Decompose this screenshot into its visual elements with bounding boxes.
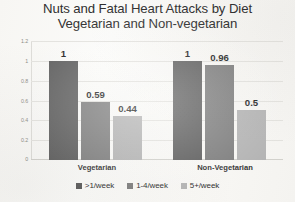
plot-area: 1.2 1 0.8 0.6 0.4 0.2 0 1 0.59 0.44 1 <box>31 41 283 160</box>
bar-value-label: 1 <box>173 48 202 59</box>
bar-value-label: 0.96 <box>205 52 234 63</box>
y-tick-label: 1 <box>25 58 28 64</box>
chart-title-line-2: Vegetarian and Non-vegetarian <box>0 16 295 31</box>
chart-figure: Nuts and Fatal Heart Attacks by Diet Veg… <box>0 0 295 202</box>
y-tick-label: 0.6 <box>21 98 28 104</box>
bar-value-label: 1 <box>49 48 78 59</box>
bar-slot: 1 <box>49 41 78 160</box>
bar-slot: 0.59 <box>81 41 110 160</box>
bar-slot: 0.5 <box>237 41 266 160</box>
x-axis-category-label: Vegetarian <box>31 163 163 172</box>
bar-group-vegetarian: 1 0.59 0.44 <box>47 41 147 160</box>
legend-label: 1-4/week <box>136 181 168 190</box>
bar[interactable] <box>237 110 266 160</box>
bar-group-non-vegetarian: 1 0.96 0.5 <box>171 41 271 160</box>
y-tick-label: 0.4 <box>21 117 28 123</box>
bar-slot: 0.44 <box>113 41 142 160</box>
bar[interactable] <box>173 61 202 160</box>
legend-label: >1/week <box>85 181 114 190</box>
y-tick-label: 1.2 <box>21 38 28 44</box>
bar[interactable] <box>113 116 142 160</box>
x-axis-category-label: Non-Vegetarian <box>155 163 295 172</box>
bar-value-label: 0.5 <box>237 97 266 108</box>
legend-label: 5+/week <box>190 181 219 190</box>
bar-value-label: 0.59 <box>81 89 110 100</box>
legend-item-gt1-week[interactable]: >1/week <box>76 181 114 190</box>
y-tick-label: 0 <box>25 156 28 162</box>
bar[interactable] <box>81 102 110 161</box>
legend-item-5-plus-week[interactable]: 5+/week <box>181 181 219 190</box>
bar[interactable] <box>205 65 234 160</box>
legend-swatch-icon <box>127 183 133 189</box>
bar-slot: 0.96 <box>205 41 234 160</box>
bar-value-label: 0.44 <box>113 103 142 114</box>
chart-legend: >1/week 1-4/week 5+/week <box>0 181 295 190</box>
y-tick-label: 0.8 <box>21 78 28 84</box>
chart-title: Nuts and Fatal Heart Attacks by Diet Veg… <box>0 1 295 31</box>
bar-slot: 1 <box>173 41 202 160</box>
legend-swatch-icon <box>76 183 82 189</box>
y-tick-label: 0.2 <box>21 137 28 143</box>
legend-item-1-4-week[interactable]: 1-4/week <box>127 181 168 190</box>
legend-swatch-icon <box>181 183 187 189</box>
bar[interactable] <box>49 61 78 160</box>
chart-title-line-1: Nuts and Fatal Heart Attacks by Diet <box>0 1 295 16</box>
